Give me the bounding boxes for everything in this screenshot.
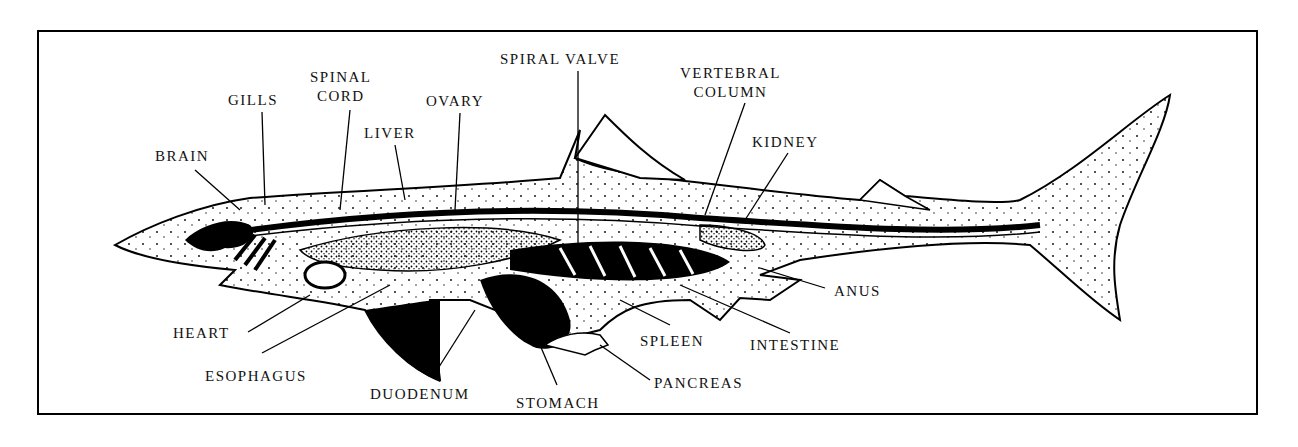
label-stomach: STOMACH — [516, 394, 600, 413]
label-spinal-cord-line2: CORD — [310, 87, 372, 106]
label-esophagus: ESOPHAGUS — [205, 367, 307, 386]
label-anus: ANUS — [834, 282, 881, 301]
label-pancreas: PANCREAS — [654, 374, 743, 393]
label-heart: HEART — [173, 324, 230, 343]
label-liver: LIVER — [364, 124, 416, 143]
label-gills: GILLS — [228, 91, 278, 110]
label-spleen: SPLEEN — [640, 332, 704, 351]
label-spinal-cord-line1: SPINAL — [310, 68, 372, 87]
label-spiral-valve: SPIRAL VALVE — [500, 50, 620, 69]
label-vertebral-column-line2: COLUMN — [680, 83, 781, 102]
label-brain: BRAIN — [155, 147, 209, 166]
label-ovary: OVARY — [426, 92, 484, 111]
label-intestine: INTESTINE — [750, 336, 840, 355]
heart — [305, 262, 345, 288]
label-spinal-cord: SPINAL CORD — [310, 68, 372, 106]
shark-illustration — [0, 0, 1298, 447]
label-vertebral-column: VERTEBRAL COLUMN — [680, 64, 781, 102]
label-duodenum: DUODENUM — [370, 385, 470, 404]
label-vertebral-column-line1: VERTEBRAL — [680, 64, 781, 83]
pectoral-fin — [365, 300, 440, 382]
label-kidney: KIDNEY — [752, 133, 819, 152]
